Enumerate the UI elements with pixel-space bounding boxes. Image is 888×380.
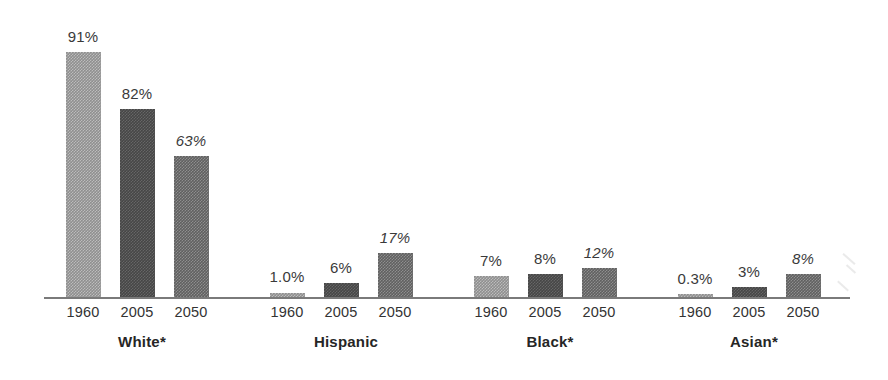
bar-slot: 12% bbox=[572, 0, 626, 297]
bar-black-1960[interactable] bbox=[474, 276, 509, 297]
tick-label-2005: 2005 bbox=[314, 303, 368, 321]
group-label-hispanic: Hispanic bbox=[248, 333, 444, 351]
group-label-white: White* bbox=[44, 333, 240, 351]
bar-slot: 8% bbox=[776, 0, 830, 297]
bar-value-label: 17% bbox=[359, 230, 431, 246]
bar-group-bars: 0.3% 3% 8% bbox=[656, 0, 852, 297]
group-label-black: Black* bbox=[452, 333, 648, 351]
tick-label-2050: 2050 bbox=[368, 303, 422, 321]
bar-group-white: 91% 82% 63% 1960 2005 2050 White* bbox=[44, 0, 240, 380]
bar-value-label: 82% bbox=[101, 86, 173, 102]
bar-value-label: 8% bbox=[767, 251, 839, 267]
tick-label-2005: 2005 bbox=[518, 303, 572, 321]
bar-value-label: 91% bbox=[47, 29, 119, 45]
bar-black-2005[interactable] bbox=[528, 274, 563, 297]
tick-label-2005: 2005 bbox=[110, 303, 164, 321]
bar-slot: 91% bbox=[56, 0, 110, 297]
bar-group-bars: 91% 82% 63% bbox=[44, 0, 240, 297]
bar-value-label: 6% bbox=[305, 260, 377, 276]
tick-label-1960: 1960 bbox=[56, 303, 110, 321]
bar-slot: 6% bbox=[314, 0, 368, 297]
bar-asian-2050[interactable] bbox=[786, 274, 821, 297]
tick-label-2050: 2050 bbox=[572, 303, 626, 321]
plot-area: 91% 82% 63% 1960 2005 2050 White* bbox=[0, 0, 888, 380]
tick-label-2005: 2005 bbox=[722, 303, 776, 321]
bar-value-label: 63% bbox=[155, 133, 227, 149]
bar-white-2050[interactable] bbox=[174, 156, 209, 297]
bar-white-2005[interactable] bbox=[120, 109, 155, 297]
bar-group-asian: 0.3% 3% 8% 1960 2005 2050 Asian* bbox=[656, 0, 852, 380]
bar-group-hispanic: 1.0% 6% 17% 1960 2005 2050 Hispanic bbox=[248, 0, 444, 380]
group-label-asian: Asian* bbox=[656, 333, 852, 351]
bar-hispanic-2050[interactable] bbox=[378, 253, 413, 297]
tick-label-1960: 1960 bbox=[668, 303, 722, 321]
bar-asian-2005[interactable] bbox=[732, 287, 767, 297]
tick-label-1960: 1960 bbox=[260, 303, 314, 321]
bar-hispanic-1960[interactable] bbox=[270, 293, 305, 297]
bar-group-bars: 1.0% 6% 17% bbox=[248, 0, 444, 297]
bar-group-black: 7% 8% 12% 1960 2005 2050 Black* bbox=[452, 0, 648, 380]
bar-black-2050[interactable] bbox=[582, 268, 617, 297]
bar-white-1960[interactable] bbox=[66, 52, 101, 297]
bar-slot: 0.3% bbox=[668, 0, 722, 297]
bar-slot: 63% bbox=[164, 0, 218, 297]
tick-label-1960: 1960 bbox=[464, 303, 518, 321]
bar-value-label: 12% bbox=[563, 245, 635, 261]
bar-slot: 1.0% bbox=[260, 0, 314, 297]
bar-hispanic-2005[interactable] bbox=[324, 283, 359, 297]
bar-asian-1960[interactable] bbox=[678, 294, 713, 297]
bar-chart: 91% 82% 63% 1960 2005 2050 White* bbox=[0, 0, 888, 380]
bar-slot: 17% bbox=[368, 0, 422, 297]
tick-label-2050: 2050 bbox=[164, 303, 218, 321]
tick-label-2050: 2050 bbox=[776, 303, 830, 321]
bar-group-bars: 7% 8% 12% bbox=[452, 0, 648, 297]
